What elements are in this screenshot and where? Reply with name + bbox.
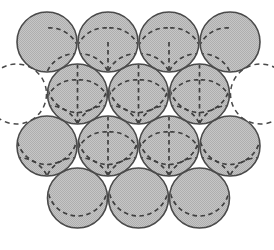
sphere <box>139 116 200 176</box>
sphere <box>108 64 169 124</box>
close-packed-spheres-figure: Close-packed spheres layer stacking diag… <box>0 0 274 250</box>
sphere <box>48 168 108 228</box>
sphere-row-2 <box>47 64 230 124</box>
sphere <box>109 168 169 228</box>
sphere <box>17 116 78 176</box>
sphere <box>169 64 230 124</box>
sphere <box>17 12 78 72</box>
sphere <box>47 64 108 124</box>
sphere <box>199 116 260 176</box>
sphere <box>200 12 261 72</box>
sphere <box>139 12 200 72</box>
sphere <box>78 116 139 176</box>
sphere <box>78 12 139 72</box>
sphere-packing-diagram: Close-packed spheres layer stacking diag… <box>0 0 274 250</box>
sphere-row-4-bottom <box>48 168 230 228</box>
sphere <box>170 168 230 228</box>
